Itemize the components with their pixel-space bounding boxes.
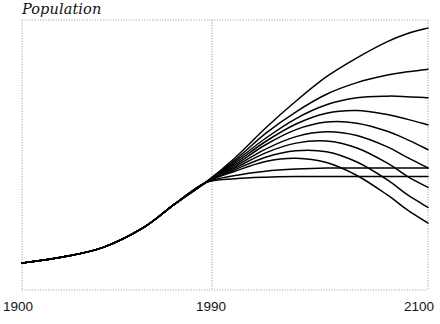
curve-scenario-4-medium-high-peak	[22, 110, 428, 263]
plot-frame	[22, 20, 428, 290]
curve-scenario-11-shallow-rise	[22, 177, 428, 263]
curve-group	[22, 28, 428, 263]
curve-scenario-1-highest	[22, 28, 428, 263]
population-projection-chart: Population 1900 1990 2100	[0, 0, 440, 324]
y-axis-label: Population	[22, 1, 101, 17]
x-tick-label-2100: 2100	[404, 299, 434, 314]
curve-scenario-5-medium-peak-decline	[22, 122, 428, 263]
curve-scenario-6-medium-rounded	[22, 132, 428, 263]
chart-canvas	[0, 0, 440, 324]
curve-scenario-9-lowest-decline	[22, 158, 428, 263]
curve-scenario-7-medium-low	[22, 141, 428, 263]
x-tick-label-1900: 1900	[3, 299, 33, 314]
x-tick-label-1990: 1990	[196, 299, 226, 314]
